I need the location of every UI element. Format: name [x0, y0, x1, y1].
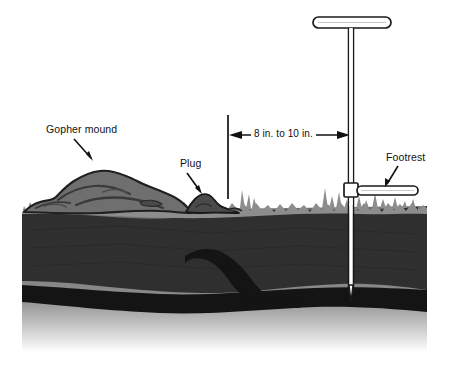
diagram-illustration	[0, 0, 451, 365]
footrest-label: Footrest	[386, 152, 425, 163]
gopher-mound-label: Gopher mound	[46, 124, 117, 135]
probe-collar	[344, 183, 358, 197]
plug	[186, 194, 242, 213]
dimension-callout	[228, 100, 351, 199]
soil-block	[22, 206, 427, 352]
gopher-mound-body	[24, 171, 192, 214]
gopher-mound	[24, 171, 192, 214]
dimension-label: 8 in. to 10 in.	[251, 129, 316, 139]
dimension-arrowhead-left	[229, 131, 242, 139]
gopher-probe-diagram: Gopher mound Plug Footrest 8 in. to 10 i…	[0, 0, 451, 365]
plug-label: Plug	[180, 158, 201, 169]
probe-shaft-body	[349, 28, 352, 292]
